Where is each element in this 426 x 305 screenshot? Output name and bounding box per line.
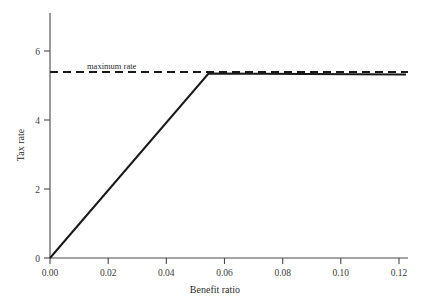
x-tick-label-2: 0.04: [158, 268, 175, 278]
y-axis-title: Tax rate: [15, 128, 26, 161]
x-tick-label-5: 0.10: [332, 268, 349, 278]
x-tick-label-6: 0.12: [391, 268, 408, 278]
tax-rate-series-line: [50, 74, 406, 259]
maximum-rate-annotation: maximum rate: [87, 61, 137, 71]
x-tick-label-0: 0.00: [42, 268, 59, 278]
chart-figure: 0 2 4 6 0.00 0.02 0.04 0.06 0.08 0.10 0.…: [0, 0, 426, 305]
x-axis-title: Benefit ratio: [190, 284, 240, 295]
y-tick-label-2: 2: [35, 185, 40, 195]
y-tick-label-4: 4: [35, 116, 40, 126]
y-tick-label-6: 6: [35, 47, 40, 57]
x-tick-label-3: 0.06: [216, 268, 233, 278]
x-tick-label-4: 0.08: [274, 268, 291, 278]
x-tick-label-1: 0.02: [100, 268, 117, 278]
y-tick-label-0: 0: [35, 254, 40, 264]
tax-rate-line-chart: 0 2 4 6 0.00 0.02 0.04 0.06 0.08 0.10 0.…: [0, 0, 426, 305]
